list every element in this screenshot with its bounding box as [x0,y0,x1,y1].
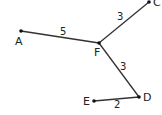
node-label-E: E [83,95,90,108]
node-label-C: C [153,0,161,9]
edge-F-C [99,2,149,43]
edge-weight-F-D: 3 [120,61,126,72]
node-C-dot [147,0,151,4]
node-A-dot [19,29,23,33]
node-label-D: D [143,91,151,104]
edge-weight-A-F: 5 [60,26,66,37]
node-label-F: F [94,46,100,59]
graph-diagram: 5332 AFCDE [0,0,162,115]
node-E-dot [92,99,96,103]
edge-F-D [99,43,139,97]
edge-weight-E-D: 2 [114,99,120,110]
node-D-dot [137,95,141,99]
node-F-dot [97,41,101,45]
edge-weight-F-C: 3 [117,11,123,22]
node-label-A: A [15,35,23,48]
